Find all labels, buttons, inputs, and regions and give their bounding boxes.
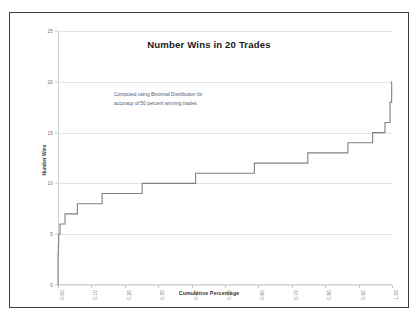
x-tick-label: 0.60 (260, 290, 265, 300)
chart-figure: Number Wins in 20 Trades Computed using … (0, 0, 420, 324)
plot-area: 0510152025 0.000.100.200.300.400.500.600… (58, 31, 392, 285)
x-tick-mark (325, 285, 326, 288)
x-tick-mark (125, 285, 126, 288)
step-line-series (58, 31, 392, 285)
y-tick-label: 10 (47, 181, 53, 186)
step-curve (58, 82, 392, 285)
x-tick-label: 0.40 (194, 290, 199, 300)
y-tick-label: 5 (50, 232, 53, 237)
chart-frame: Number Wins in 20 Trades Computed using … (9, 12, 409, 308)
y-axis-title: Number Wins (42, 145, 47, 176)
x-tick-mark (392, 285, 393, 288)
x-tick-label: 0.70 (294, 290, 299, 300)
x-tick-label: 0.50 (227, 290, 232, 300)
x-tick-mark (258, 285, 259, 288)
x-tick-label: 1.00 (394, 290, 399, 300)
x-tick-mark (91, 285, 92, 288)
x-tick-label: 0.10 (93, 290, 98, 300)
x-tick-label: 0.90 (361, 290, 366, 300)
x-tick-mark (359, 285, 360, 288)
y-tick-label: 25 (47, 29, 53, 34)
y-tick-label: 0 (50, 283, 53, 288)
x-tick-label: 0.80 (327, 290, 332, 300)
x-tick-mark (58, 285, 59, 288)
y-tick-label: 20 (47, 79, 53, 84)
x-tick-label: 0.30 (160, 290, 165, 300)
x-tick-mark (225, 285, 226, 288)
x-tick-mark (292, 285, 293, 288)
x-tick-mark (158, 285, 159, 288)
x-axis-title: Cumulative Percentage (10, 290, 408, 296)
x-tick-label: 0.20 (127, 290, 132, 300)
x-tick-label: 0.00 (60, 290, 65, 300)
x-tick-mark (192, 285, 193, 288)
y-tick-label: 15 (47, 130, 53, 135)
